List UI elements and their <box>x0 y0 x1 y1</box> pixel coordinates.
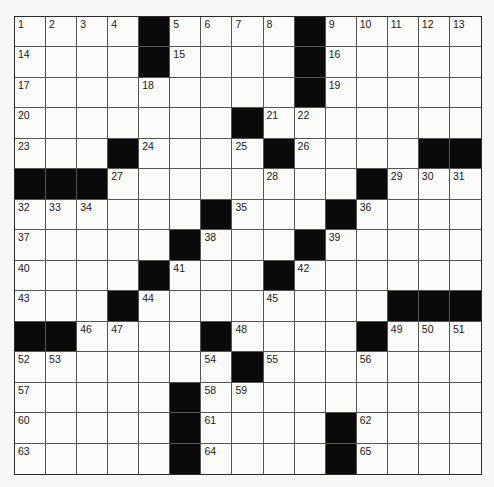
grid-cell[interactable] <box>108 78 139 108</box>
grid-cell[interactable] <box>46 383 77 413</box>
grid-cell[interactable] <box>450 413 481 443</box>
grid-cell[interactable] <box>295 200 326 230</box>
grid-cell[interactable] <box>77 383 108 413</box>
grid-cell[interactable]: 39 <box>326 230 357 260</box>
grid-cell[interactable] <box>388 413 419 443</box>
grid-cell[interactable]: 47 <box>108 322 139 352</box>
grid-cell[interactable] <box>201 139 232 169</box>
grid-cell[interactable]: 35 <box>232 200 263 230</box>
grid-cell[interactable] <box>388 352 419 382</box>
grid-cell[interactable]: 18 <box>139 78 170 108</box>
grid-cell[interactable] <box>77 139 108 169</box>
grid-cell[interactable]: 64 <box>201 444 232 474</box>
grid-cell[interactable] <box>388 383 419 413</box>
grid-cell[interactable] <box>450 444 481 474</box>
grid-cell[interactable]: 43 <box>15 291 46 321</box>
grid-cell[interactable] <box>139 108 170 138</box>
grid-cell[interactable]: 24 <box>139 139 170 169</box>
grid-cell[interactable] <box>77 108 108 138</box>
grid-cell[interactable]: 34 <box>77 200 108 230</box>
grid-cell[interactable]: 20 <box>15 108 46 138</box>
grid-cell[interactable] <box>232 230 263 260</box>
grid-cell[interactable] <box>450 108 481 138</box>
grid-cell[interactable]: 63 <box>15 444 46 474</box>
grid-cell[interactable] <box>264 230 295 260</box>
grid-cell[interactable] <box>170 291 201 321</box>
grid-cell[interactable] <box>357 47 388 77</box>
grid-cell[interactable] <box>450 352 481 382</box>
grid-cell[interactable]: 50 <box>419 322 450 352</box>
grid-cell[interactable]: 16 <box>326 47 357 77</box>
grid-cell[interactable]: 54 <box>201 352 232 382</box>
grid-cell[interactable] <box>264 322 295 352</box>
grid-cell[interactable] <box>77 413 108 443</box>
grid-cell[interactable] <box>450 47 481 77</box>
grid-cell[interactable] <box>450 78 481 108</box>
grid-cell[interactable] <box>388 108 419 138</box>
grid-cell[interactable] <box>419 230 450 260</box>
grid-cell[interactable] <box>419 352 450 382</box>
grid-cell[interactable] <box>264 78 295 108</box>
grid-cell[interactable] <box>77 230 108 260</box>
grid-cell[interactable] <box>295 322 326 352</box>
grid-cell[interactable] <box>419 261 450 291</box>
grid-cell[interactable] <box>108 383 139 413</box>
grid-cell[interactable] <box>77 78 108 108</box>
grid-cell[interactable] <box>139 352 170 382</box>
grid-cell[interactable] <box>419 108 450 138</box>
grid-cell[interactable] <box>170 169 201 199</box>
grid-cell[interactable] <box>139 444 170 474</box>
grid-cell[interactable]: 31 <box>450 169 481 199</box>
grid-cell[interactable]: 28 <box>264 169 295 199</box>
grid-cell[interactable]: 33 <box>46 200 77 230</box>
grid-cell[interactable] <box>46 261 77 291</box>
grid-cell[interactable] <box>295 413 326 443</box>
grid-cell[interactable]: 23 <box>15 139 46 169</box>
grid-cell[interactable] <box>108 444 139 474</box>
grid-cell[interactable]: 7 <box>232 17 263 47</box>
grid-cell[interactable]: 56 <box>357 352 388 382</box>
grid-cell[interactable] <box>170 139 201 169</box>
grid-cell[interactable]: 13 <box>450 17 481 47</box>
grid-cell[interactable] <box>357 383 388 413</box>
grid-cell[interactable]: 38 <box>201 230 232 260</box>
grid-cell[interactable] <box>108 47 139 77</box>
grid-cell[interactable]: 25 <box>232 139 263 169</box>
grid-cell[interactable] <box>419 200 450 230</box>
grid-cell[interactable]: 12 <box>419 17 450 47</box>
grid-cell[interactable] <box>46 78 77 108</box>
grid-cell[interactable] <box>77 352 108 382</box>
grid-cell[interactable] <box>170 352 201 382</box>
grid-cell[interactable] <box>139 169 170 199</box>
grid-cell[interactable] <box>419 444 450 474</box>
grid-cell[interactable]: 49 <box>388 322 419 352</box>
grid-cell[interactable]: 36 <box>357 200 388 230</box>
grid-cell[interactable] <box>326 383 357 413</box>
grid-cell[interactable]: 11 <box>388 17 419 47</box>
grid-cell[interactable] <box>357 230 388 260</box>
grid-cell[interactable] <box>201 78 232 108</box>
grid-cell[interactable] <box>295 169 326 199</box>
grid-cell[interactable] <box>326 261 357 291</box>
grid-cell[interactable]: 42 <box>295 261 326 291</box>
grid-cell[interactable]: 59 <box>232 383 263 413</box>
grid-cell[interactable]: 46 <box>77 322 108 352</box>
grid-cell[interactable]: 17 <box>15 78 46 108</box>
grid-cell[interactable] <box>357 78 388 108</box>
grid-cell[interactable]: 30 <box>419 169 450 199</box>
grid-cell[interactable] <box>108 230 139 260</box>
grid-cell[interactable] <box>264 200 295 230</box>
grid-cell[interactable]: 45 <box>264 291 295 321</box>
grid-cell[interactable] <box>77 47 108 77</box>
grid-cell[interactable]: 4 <box>108 17 139 47</box>
grid-cell[interactable] <box>326 108 357 138</box>
grid-cell[interactable] <box>232 47 263 77</box>
grid-cell[interactable] <box>201 291 232 321</box>
grid-cell[interactable]: 2 <box>46 17 77 47</box>
grid-cell[interactable]: 27 <box>108 169 139 199</box>
grid-cell[interactable] <box>139 413 170 443</box>
grid-cell[interactable] <box>232 413 263 443</box>
grid-cell[interactable] <box>108 413 139 443</box>
grid-cell[interactable] <box>357 108 388 138</box>
grid-cell[interactable]: 1 <box>15 17 46 47</box>
